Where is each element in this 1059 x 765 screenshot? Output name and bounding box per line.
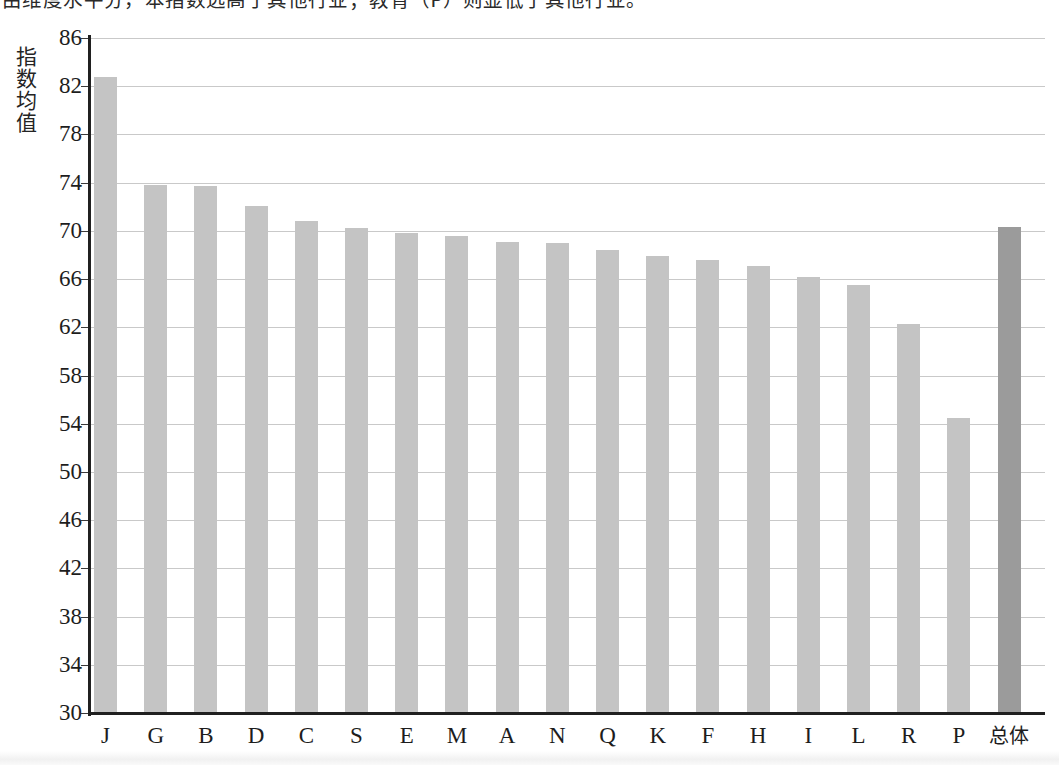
bar: [897, 324, 920, 713]
bar: [395, 233, 418, 713]
y-axis-tick-label: 86: [36, 26, 82, 49]
y-axis-tick-label: 42: [36, 556, 82, 579]
scan-artifact-band: [0, 751, 1059, 765]
x-axis-tick-label: 总体: [979, 722, 1039, 750]
bar: [596, 250, 619, 713]
y-axis-tick-label: 30: [36, 701, 82, 724]
y-axis-tick-label: 38: [36, 605, 82, 628]
plot-area: [88, 38, 1045, 713]
bar: [445, 236, 468, 713]
bar: [295, 221, 318, 713]
y-axis-tick-label-group: 868278747066625854504642383430: [36, 0, 82, 765]
bar: [496, 242, 519, 713]
y-axis-tick-label: 78: [36, 122, 82, 145]
bar: [94, 77, 117, 713]
x-axis-line: [88, 712, 1045, 715]
y-axis-tick-label: 66: [36, 267, 82, 290]
bar: [546, 243, 569, 713]
y-axis-tick-label: 54: [36, 412, 82, 435]
y-axis-tick-label: 74: [36, 171, 82, 194]
bar: [194, 186, 217, 713]
y-axis-tick-label: 34: [36, 653, 82, 676]
y-axis-tick-label: 50: [36, 460, 82, 483]
bar: [245, 206, 268, 713]
y-axis-title: 指数均值: [6, 30, 36, 150]
bar: [696, 260, 719, 713]
bar: [144, 185, 167, 713]
y-axis-tick-label: 70: [36, 219, 82, 242]
bar: [345, 228, 368, 713]
bar: [947, 418, 970, 713]
y-axis-line: [88, 35, 91, 716]
y-axis-tick-label: 82: [36, 74, 82, 97]
bar: [847, 285, 870, 713]
y-axis-tick-label: 46: [36, 508, 82, 531]
bar: [747, 266, 770, 713]
bar: [646, 256, 669, 713]
bar: [998, 227, 1021, 713]
y-axis-tick-label: 58: [36, 364, 82, 387]
bar-chart-figure: 指数均值 868278747066625854504642383430 JGBD…: [0, 0, 1059, 765]
y-axis-tick-label: 62: [36, 315, 82, 338]
bar: [797, 277, 820, 713]
bar-series: [88, 38, 1045, 713]
